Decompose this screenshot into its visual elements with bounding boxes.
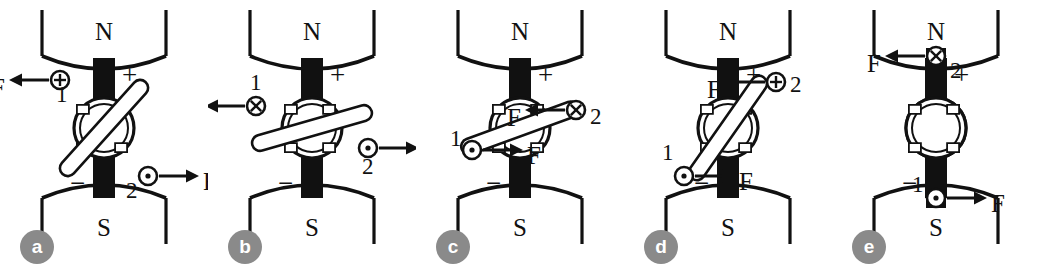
north-pole-label: N [927,18,945,45]
coil-end-2-label: 2 [590,104,602,129]
coil-end-1-label: 1 [250,70,262,95]
north-pole-label: N [511,18,529,45]
force-arrow-head [9,74,22,87]
coil-end-1-symbol [463,141,481,159]
rotor-notch [947,105,959,114]
coil-end-1-symbol [675,167,693,185]
panel-a: NS+−1F2Fa [0,0,208,268]
rotor-notch [323,143,335,152]
south-pole-label: S [513,214,527,241]
panel-e: NS+−1F2Fe [832,0,1040,268]
force-arrow-head [186,170,199,183]
coil-end-2-symbol [139,167,157,185]
south-pole-label: S [97,214,111,241]
panel-badge-d: d [644,230,678,264]
coil-end-2-force-arrow [159,170,199,183]
coil-end-2-symbol [927,47,945,65]
rotor-notch [739,143,751,152]
coil-end-2-force-arrow [379,142,416,155]
rotor-notch [947,143,959,152]
motor-coil-orientation-figure: NS+−1F2FaNS+−1F2FbNS+−1F2FcNS+−1F2FdNS+−… [0,0,1042,268]
coil-end-2-symbol [567,101,585,119]
panel-b: NS+−1F2Fb [208,0,416,268]
panel-diagram-e: NS+−1F2F [832,0,1040,268]
positive-terminal-sign: + [538,60,553,90]
coil-end-2-force-label: F [867,50,881,77]
coil-end-2-label: 2 [126,178,138,203]
panel-badge-e: e [852,230,886,264]
force-arrow-head [208,100,218,113]
rotor-notch [115,143,127,152]
coil-end-1-label: 1 [56,82,68,107]
panel-badge-a: a [20,230,54,264]
south-pole-label: S [929,214,943,241]
current-out-dot-icon [365,145,370,150]
rotor-notch [77,105,89,114]
coil-end-2-label: 2 [790,72,802,97]
panel-d: NS+−1F2Fd [624,0,832,268]
current-out-dot-icon [469,147,474,152]
north-pole-label: N [303,18,321,45]
commutator-bar-bottom [301,156,323,198]
north-pole-label: N [719,18,737,45]
panel-c: NS+−1F2Fc [416,0,624,268]
current-out-dot-icon [933,195,938,200]
rotor-notch [909,105,921,114]
coil-end-1-force-label: F [0,74,5,101]
rotor-notch [909,143,921,152]
coil-end-1-force-arrow [9,74,49,87]
force-arrow-head [406,142,416,155]
panel-badge-b: b [228,230,262,264]
commutator-bar-top [93,58,115,100]
panel-diagram-d: NS+−1F2F [624,0,832,268]
coil-end-1-label: 1 [912,172,924,197]
south-pole-label: S [721,214,735,241]
coil-end-2-symbol [767,73,785,91]
panel-diagram-b: NS+−1F2F [208,0,416,268]
coil-end-2-force-label: F [707,76,721,103]
coil-end-2-force-label: F [507,104,521,131]
coil-end-1-symbol [927,189,945,207]
coil-end-1-force-label: F [739,168,753,195]
coil-end-1-label: 1 [662,140,674,165]
panel-diagram-a: NS+−1F2F [0,0,208,268]
commutator-bar-bottom [93,156,115,198]
coil-end-1-force-label: F [527,142,541,169]
panel-badge-c: c [436,230,470,264]
coil-end-1-force-arrow [208,100,245,113]
negative-terminal-sign: − [278,168,293,198]
coil-end-2-label: 2 [362,154,374,179]
panel-diagram-c: NS+−1F2F [416,0,624,268]
positive-terminal-sign: + [330,60,345,90]
current-out-dot-icon [145,173,150,178]
coil-end-1-force-label: F [991,190,1005,217]
commutator-bar-top [509,58,531,100]
coil-end-1-symbol [247,97,265,115]
north-pole-label: N [95,18,113,45]
coil-end-2-label: 2 [950,58,962,83]
rotor-notch [701,105,713,114]
rotor-notch [493,105,505,114]
commutator-bar-top [301,58,323,100]
rotor-armature [906,98,966,158]
coil-end-1-label: 1 [450,126,462,151]
rotor-notch [285,105,297,114]
south-pole-label: S [305,214,319,241]
negative-terminal-sign: − [486,168,501,198]
current-out-dot-icon [681,173,686,178]
